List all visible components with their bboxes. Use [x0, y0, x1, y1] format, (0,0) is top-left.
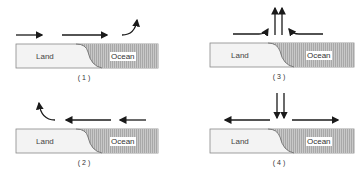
panel-2-graphic	[0, 91, 181, 182]
panel-3: Land Ocean ( 3 )	[181, 0, 362, 91]
panel-caption: ( 1 )	[64, 74, 104, 81]
land-label: Land	[36, 52, 54, 61]
ocean-label: Ocean	[306, 137, 332, 146]
converging-arrow-right	[289, 29, 323, 34]
ocean-label: Ocean	[110, 52, 136, 61]
land-label: Land	[36, 137, 54, 146]
panel-4: Land Ocean ( 4 )	[181, 91, 362, 182]
panel-2: Land Ocean ( 2 )	[0, 91, 181, 182]
panel-1: Land Ocean ( 1 )	[0, 0, 181, 91]
land-label: Land	[231, 137, 249, 146]
panel-caption: ( 2 )	[64, 159, 104, 166]
converging-arrow-left	[233, 29, 268, 34]
panel-caption: ( 4 )	[259, 159, 299, 166]
ocean-label: Ocean	[110, 137, 136, 146]
ocean-label: Ocean	[306, 51, 332, 60]
land-label: Land	[231, 51, 249, 60]
rising-arrow	[39, 103, 55, 120]
panel-4-graphic	[181, 91, 363, 182]
rising-arrow	[122, 20, 137, 35]
panel-caption: ( 3 )	[259, 73, 299, 80]
